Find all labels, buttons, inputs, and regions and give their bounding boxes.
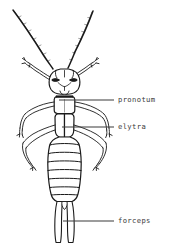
forceps-base-plate xyxy=(62,202,67,210)
forceps-left xyxy=(55,202,63,243)
label-forceps: forceps xyxy=(118,216,151,225)
label-elytra: elytra xyxy=(118,122,146,131)
antenna-right xyxy=(68,11,93,68)
eye-right xyxy=(70,79,78,82)
pronotum-collar xyxy=(56,96,73,98)
eye-left xyxy=(52,79,60,82)
label-group-forceps: forceps xyxy=(63,216,151,225)
earwig-anatomy-figure: pronotum elytra forceps xyxy=(0,0,179,250)
forceps-right xyxy=(67,202,75,243)
label-pronotum: pronotum xyxy=(118,95,155,104)
antenna-left xyxy=(13,10,53,69)
